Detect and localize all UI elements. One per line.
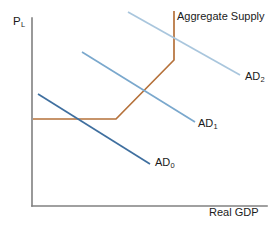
ad2-label-subscript: 2 xyxy=(260,75,264,84)
aggregate-supply-demand-chart: PL Real GDP Aggregate Supply AD0 AD1 AD2 xyxy=(0,0,279,234)
chart-canvas xyxy=(0,0,279,234)
ad1-label-text: AD xyxy=(198,117,213,129)
ad2-label: AD2 xyxy=(245,71,265,82)
ad2-label-text: AD xyxy=(245,70,260,82)
ad0-curve xyxy=(38,94,150,164)
ad1-label: AD1 xyxy=(198,118,218,129)
ad0-label-text: AD xyxy=(155,156,170,168)
ad0-label: AD0 xyxy=(155,157,175,168)
y-axis-label-subscript: L xyxy=(21,20,25,29)
aggregate-supply-label: Aggregate Supply xyxy=(177,11,264,22)
ad1-curve xyxy=(82,52,195,122)
x-axis-label: Real GDP xyxy=(209,207,259,218)
curves-group xyxy=(33,11,240,164)
y-axis-label-text: P xyxy=(13,15,21,27)
y-axis-label: PL xyxy=(13,16,25,28)
ad1-label-subscript: 1 xyxy=(213,122,217,131)
ad0-label-subscript: 0 xyxy=(170,161,174,170)
